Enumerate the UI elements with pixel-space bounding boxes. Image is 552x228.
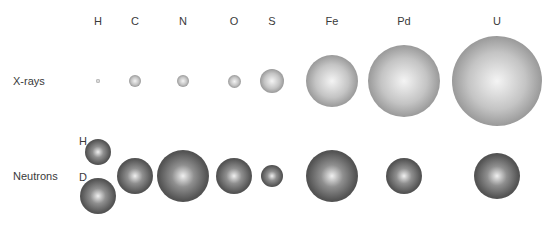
isotope-label-d: D [79,171,87,183]
neutrons-sphere-o [216,158,252,194]
xrays-sphere-n [177,75,189,87]
neutrons-sphere-c [117,158,153,194]
element-header-o: O [230,15,239,27]
element-header-pd: Pd [397,15,410,27]
element-header-n: N [179,15,187,27]
isotope-label-h: H [79,135,87,147]
xrays-sphere-fe [306,55,358,107]
element-header-c: C [131,15,139,27]
neutrons-sphere-s [261,165,283,187]
neutrons-sphere-n [157,150,209,202]
neutrons-sphere-pd [386,158,422,194]
element-header-s: S [268,15,275,27]
xrays-sphere-h [96,79,100,83]
xrays-sphere-u [452,36,542,126]
row-label-xrays: X-rays [13,75,45,87]
row-label-neutrons: Neutrons [13,170,58,182]
element-header-h: H [94,15,102,27]
neutrons-sphere-h [85,139,111,165]
neutrons-sphere-u [474,153,520,199]
xrays-sphere-o [228,75,241,88]
xrays-sphere-pd [368,45,440,117]
element-header-fe: Fe [326,15,339,27]
xrays-sphere-c [129,75,141,87]
neutrons-sphere-d [80,178,116,214]
xrays-sphere-s [260,69,284,93]
element-header-u: U [493,15,501,27]
neutrons-sphere-fe [306,150,358,202]
scattering-comparison-diagram: HCNOSFePdU X-rays Neutrons HD [0,0,552,228]
